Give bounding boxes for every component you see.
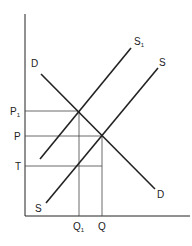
supply-curve-s1 — [40, 48, 131, 159]
label-s-bottom: S — [35, 203, 42, 214]
supply-demand-diagram: D D S1 S S P1 P T Q1 Q — [0, 0, 192, 246]
label-d-top: D — [31, 58, 38, 69]
label-q: Q — [98, 221, 106, 232]
label-d-bottom: D — [157, 189, 164, 200]
label-p1: P1 — [10, 106, 21, 118]
label-t: T — [15, 161, 21, 172]
label-p: P — [14, 131, 21, 142]
label-s-top: S — [159, 57, 166, 68]
label-q1: Q1 — [73, 221, 85, 233]
label-s1: S1 — [134, 36, 145, 48]
